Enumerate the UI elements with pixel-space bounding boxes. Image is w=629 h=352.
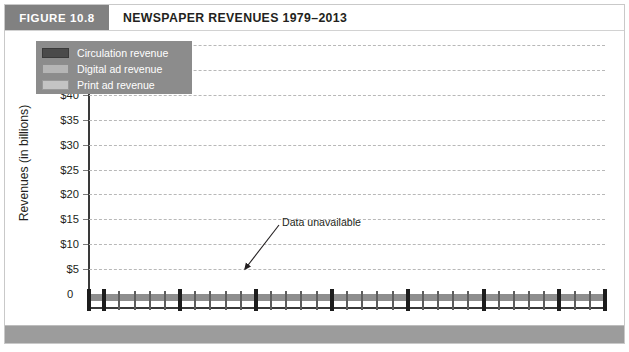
x-tick-mark: [392, 291, 394, 310]
x-tick-mark: [437, 291, 439, 310]
x-tick-mark: [225, 291, 227, 310]
y-tick-mark: [83, 95, 88, 96]
x-tick-mark: [589, 291, 591, 310]
x-tick-mark: [528, 291, 530, 310]
figure-number-badge: FIGURE 10.8: [5, 5, 109, 30]
chart-area: Revenues (in billions) $5$10$15$20$25$30…: [5, 31, 624, 321]
x-tick-mark: [178, 289, 182, 311]
x-tick-mark: [285, 291, 287, 310]
legend-item-print-ad-revenue: Print ad revenue: [42, 77, 186, 92]
x-tick-mark: [194, 291, 196, 310]
figure-title: NEWSPAPER REVENUES 1979–2013: [123, 5, 347, 30]
x-tick-mark: [300, 291, 302, 310]
figure-card: FIGURE 10.8 NEWSPAPER REVENUES 1979–2013…: [4, 4, 625, 344]
data-unavailable-label: Data unavailable: [282, 216, 361, 228]
y-axis-title: Revenues (in billions): [17, 78, 31, 248]
x-tick-mark: [346, 291, 348, 310]
x-tick-mark: [557, 289, 561, 311]
legend-label-print-ad-revenue: Print ad revenue: [77, 79, 155, 91]
x-tick-mark: [134, 291, 136, 310]
y-tick-mark: [83, 244, 88, 245]
legend-swatch-digital-ad-revenue: [42, 64, 69, 74]
x-tick-mark: [513, 291, 515, 310]
y-tick-mark: [83, 269, 88, 270]
y-tick-label: $35: [60, 114, 79, 126]
x-tick-mark: [118, 291, 120, 310]
legend-label-circulation-revenue: Circulation revenue: [77, 47, 168, 59]
legend-item-circulation-revenue: Circulation revenue: [42, 45, 186, 60]
x-tick-mark: [467, 291, 469, 310]
y-tick-label: $20: [60, 188, 79, 200]
x-tick-mark: [240, 291, 242, 310]
x-tick-mark: [102, 289, 106, 311]
x-tick-mark: [361, 291, 363, 310]
x-tick-mark: [482, 289, 486, 311]
x-tick-mark: [452, 291, 454, 310]
legend-swatch-print-ad-revenue: [42, 80, 69, 90]
y-tick-mark: [83, 194, 88, 195]
data-unavailable-arrow-icon: [233, 221, 293, 277]
x-tick-mark: [574, 291, 576, 310]
x-tick-mark: [270, 291, 272, 310]
x-tick-mark: [330, 289, 334, 311]
y-tick-mark: [83, 170, 88, 171]
legend-item-digital-ad-revenue: Digital ad revenue: [42, 61, 186, 76]
x-tick-mark: [149, 291, 151, 310]
x-tick-mark: [254, 289, 258, 311]
legend-swatch-circulation-revenue: [42, 48, 69, 58]
y-tick-label: $30: [60, 139, 79, 151]
figure-header: FIGURE 10.8 NEWSPAPER REVENUES 1979–2013: [5, 5, 624, 31]
figure-footer-bar: [5, 325, 624, 343]
x-tick-mark: [376, 291, 378, 310]
y-tick-label: $10: [60, 238, 79, 250]
y-axis-zero-label: 0: [67, 288, 73, 300]
x-tick-mark: [164, 291, 166, 310]
x-tick-mark: [87, 289, 91, 311]
chart-legend: Circulation revenue Digital ad revenue P…: [36, 41, 192, 94]
y-tick-label: $15: [60, 213, 79, 225]
y-tick-mark: [83, 120, 88, 121]
y-tick-mark: [83, 219, 88, 220]
x-tick-mark: [498, 291, 500, 310]
x-tick-mark: [603, 289, 607, 311]
legend-label-digital-ad-revenue: Digital ad revenue: [77, 63, 162, 75]
y-tick-label: $25: [60, 164, 79, 176]
x-tick-mark: [209, 291, 211, 310]
x-tick-mark: [422, 291, 424, 310]
x-tick-mark: [543, 291, 545, 310]
x-tick-mark: [406, 289, 410, 311]
y-tick-mark: [83, 145, 88, 146]
y-tick-label: $5: [67, 263, 79, 275]
x-tick-mark: [316, 291, 318, 310]
